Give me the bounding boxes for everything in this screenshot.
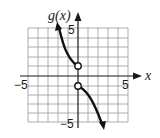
- axes: [20, 18, 136, 128]
- y-max-label: 5: [68, 23, 75, 37]
- x-axis-arrow-icon: [133, 73, 142, 80]
- x-min-label: −5: [14, 78, 28, 92]
- open-circle-lower: [75, 83, 81, 89]
- right-branch: [80, 87, 102, 124]
- function-graph: g(x) x −5 5 5 −5: [0, 0, 160, 138]
- x-max-label: 5: [122, 78, 129, 92]
- y-min-label: −5: [60, 117, 74, 131]
- function-label: g(x): [48, 8, 71, 24]
- curve-arrow-down-icon: [99, 121, 106, 130]
- open-circle-upper: [75, 63, 81, 69]
- y-axis-arrow-icon: [75, 12, 82, 21]
- curve-arrow-up-icon: [55, 22, 62, 31]
- x-axis-label: x: [144, 68, 152, 83]
